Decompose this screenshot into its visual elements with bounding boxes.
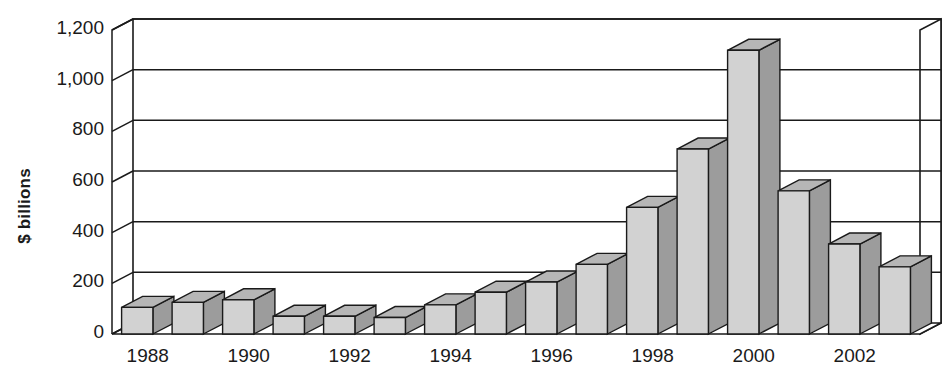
x-tick-label-1988: 1988 [108, 345, 188, 367]
x-tick-label-2000: 2000 [714, 345, 794, 367]
x-tick-label-1992: 1992 [310, 345, 390, 367]
bar-chart: $ billions 1,2001,0008006004002000 19881… [0, 0, 951, 385]
x-tick-label-1994: 1994 [411, 345, 491, 367]
x-tick-label-1998: 1998 [613, 345, 693, 367]
x-tick-label-1990: 1990 [209, 345, 289, 367]
x-axis-tick-labels: 19881990199219941996199820002002 [0, 0, 951, 385]
x-tick-label-2002: 2002 [815, 345, 895, 367]
x-tick-label-1996: 1996 [512, 345, 592, 367]
